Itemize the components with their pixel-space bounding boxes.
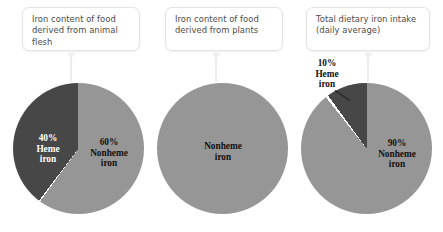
pie-label-animal-flesh-heme-l3: iron [27,154,69,165]
pin-stem-plants [215,54,217,82]
pie-label-plants-nonheme-l1: Nonheme [194,141,252,152]
pie-label-total-intake-nonheme-l1: 90% [368,138,426,149]
pie-label-total-intake-heme: 10% Heme iron [304,58,350,90]
callout-total-intake-text: Total dietary iron intake (daily average… [316,14,416,35]
pie-label-animal-flesh-heme: 40% Heme iron [27,133,69,165]
pin-stem-animal-flesh [70,54,72,82]
pie-label-total-intake-nonheme: 90% Nonheme iron [368,138,426,170]
pie-label-total-intake-heme-l1: 10% [304,58,350,69]
callout-animal-flesh: Iron content of food derived from animal… [22,7,140,51]
pie-label-total-intake-heme-l2: Heme [304,69,350,80]
pie-label-animal-flesh-heme-l2: Heme [27,144,69,155]
pie-label-total-intake-nonheme-l3: iron [368,159,426,170]
callout-plants: Iron content of food derived from plants [165,7,283,51]
callout-total-intake: Total dietary iron intake (daily average… [306,7,430,51]
pie-label-animal-flesh-nonheme-l2: Nonheme [81,148,137,159]
pie-label-animal-flesh-heme-l1: 40% [27,133,69,144]
figure-canvas: Iron content of food derived from animal… [0,0,443,232]
pie-label-animal-flesh-nonheme-l1: 60% [81,137,137,148]
pie-label-plants-nonheme-l2: iron [194,152,252,163]
callout-plants-text: Iron content of food derived from plants [175,14,259,35]
pie-label-total-intake-heme-l3: iron [304,79,350,90]
pin-stem-total-intake [367,54,369,82]
pie-label-animal-flesh-nonheme-l3: iron [81,158,137,169]
callout-animal-flesh-text: Iron content of food derived from animal… [32,14,118,47]
pie-label-plants-nonheme: Nonheme iron [194,141,252,162]
pie-label-animal-flesh-nonheme: 60% Nonheme iron [81,137,137,169]
pie-label-total-intake-nonheme-l2: Nonheme [368,149,426,160]
